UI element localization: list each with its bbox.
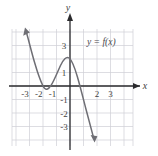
ytick-label-3: 3 <box>62 41 67 51</box>
ytick-label-neg2: -2 <box>60 109 68 119</box>
xtick-label-neg2: -2 <box>35 89 43 99</box>
xtick-label-neg1: -1 <box>49 89 57 99</box>
ytick-label-1: 1 <box>62 68 67 78</box>
y-axis-arrow-icon <box>67 13 73 21</box>
graph-svg: -3 -2 -1 2 3 3 1 -1 -2 -3 x y y = f(x) <box>0 0 158 156</box>
xtick-label-2: 2 <box>95 89 100 99</box>
ytick-label-neg1: -1 <box>60 95 68 105</box>
y-axis <box>67 13 73 150</box>
xtick-label-neg3: -3 <box>21 89 29 99</box>
curve-arrow-down-icon <box>91 135 98 143</box>
x-axis-arrow-icon <box>133 83 140 89</box>
function-annotation: y = f(x) <box>86 37 116 48</box>
x-axis-label: x <box>142 80 148 91</box>
y-axis-label: y <box>65 2 71 13</box>
function-graph-figure: -3 -2 -1 2 3 3 1 -1 -2 -3 x y y = f(x) <box>0 0 158 156</box>
ytick-label-neg3: -3 <box>60 122 68 132</box>
xtick-label-3: 3 <box>108 89 113 99</box>
